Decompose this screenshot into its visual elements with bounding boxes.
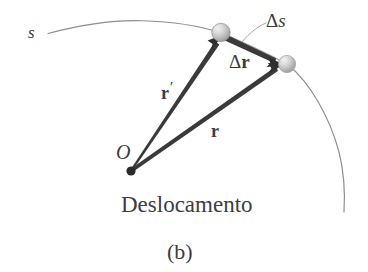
figure-caption: Deslocamento xyxy=(121,193,253,216)
delta-symbol: Δ xyxy=(266,10,278,31)
subfigure-label: (b) xyxy=(167,241,193,263)
displacement-label-delta-r: Δr xyxy=(229,52,250,71)
vector-label-r: r xyxy=(211,122,219,140)
displacement-variable: r xyxy=(241,51,249,72)
particle-final xyxy=(278,55,295,72)
origin-point xyxy=(126,166,135,175)
vector-label-r-prime: r′ xyxy=(161,80,172,102)
r-prime-variable: r xyxy=(161,83,169,103)
prime-mark: ′ xyxy=(169,79,172,95)
particle-initial xyxy=(212,23,230,41)
origin-label: O xyxy=(116,142,130,162)
diagram-canvas xyxy=(0,0,368,272)
arc-length-variable: s xyxy=(278,10,285,31)
displacement-diagram-figure: s Δs Δr r′ r O Deslocamento (b) xyxy=(0,0,368,272)
trajectory-curve-right xyxy=(287,64,344,212)
trajectory-curve-left xyxy=(48,21,221,34)
vector-r xyxy=(130,63,285,174)
delta-symbol: Δ xyxy=(229,51,241,72)
path-label-s: s xyxy=(28,24,35,41)
arc-length-label-delta-s: Δs xyxy=(266,11,286,30)
vector-r-prime xyxy=(128,34,224,173)
